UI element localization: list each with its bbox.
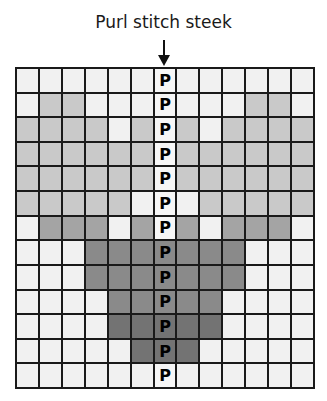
chart-cell	[40, 241, 61, 264]
chart-cell	[292, 143, 313, 166]
chart-cell	[132, 315, 153, 338]
purl-steek-cell: P	[155, 192, 176, 215]
chart-cell	[200, 118, 221, 141]
chart-cell	[177, 315, 198, 338]
chart-cell	[269, 364, 290, 387]
purl-steek-cell: P	[155, 69, 176, 92]
chart-cell	[86, 364, 107, 387]
chart-cell	[246, 94, 267, 117]
chart-cell	[132, 340, 153, 363]
chart-cell	[200, 340, 221, 363]
chart-cell	[63, 217, 84, 240]
chart-cell	[40, 266, 61, 289]
chart-cell	[40, 118, 61, 141]
chart-cell	[132, 217, 153, 240]
chart-cell	[223, 69, 244, 92]
chart-cell	[63, 69, 84, 92]
chart-cell	[200, 69, 221, 92]
chart-cell	[17, 192, 38, 215]
chart-cell	[40, 94, 61, 117]
chart-cell	[292, 340, 313, 363]
chart-cell	[269, 266, 290, 289]
chart-cell	[269, 167, 290, 190]
chart-cell	[269, 94, 290, 117]
chart-cell	[86, 217, 107, 240]
chart-cell	[109, 217, 130, 240]
purl-steek-cell: P	[155, 340, 176, 363]
chart-cell	[292, 241, 313, 264]
chart-cell	[200, 291, 221, 314]
chart-cell	[17, 217, 38, 240]
chart-cell	[17, 94, 38, 117]
chart-cell	[40, 315, 61, 338]
chart-cell	[246, 192, 267, 215]
chart-cell	[177, 69, 198, 92]
chart-cell	[177, 364, 198, 387]
chart-cell	[132, 167, 153, 190]
chart-cell	[63, 291, 84, 314]
chart-cell	[132, 241, 153, 264]
chart-cell	[17, 340, 38, 363]
chart-cell	[86, 340, 107, 363]
chart-cell	[223, 266, 244, 289]
chart-cell	[246, 315, 267, 338]
chart-cell	[40, 291, 61, 314]
chart-cell	[200, 143, 221, 166]
chart-cell	[223, 167, 244, 190]
chart-cell	[246, 143, 267, 166]
chart-cell	[63, 266, 84, 289]
chart-cell	[109, 340, 130, 363]
chart-cell	[17, 241, 38, 264]
chart-cell	[109, 118, 130, 141]
chart-cell	[223, 241, 244, 264]
chart-cell	[17, 315, 38, 338]
chart-cell	[246, 118, 267, 141]
chart-cell	[40, 143, 61, 166]
chart-cell	[40, 217, 61, 240]
chart-cell	[269, 340, 290, 363]
purl-steek-cell: P	[155, 217, 176, 240]
chart-cell	[292, 364, 313, 387]
chart-cell	[63, 241, 84, 264]
chart-cell	[292, 217, 313, 240]
chart-cell	[109, 192, 130, 215]
chart-cell	[292, 192, 313, 215]
chart-cell	[86, 94, 107, 117]
chart-cell	[223, 94, 244, 117]
chart-cell	[63, 364, 84, 387]
chart-cell	[109, 69, 130, 92]
chart-cell	[109, 291, 130, 314]
chart-cell	[246, 69, 267, 92]
chart-cell	[292, 167, 313, 190]
purl-steek-cell: P	[155, 241, 176, 264]
purl-steek-cell: P	[155, 143, 176, 166]
chart-cell	[223, 192, 244, 215]
chart-cell	[109, 241, 130, 264]
chart-cell	[132, 291, 153, 314]
chart-cell	[223, 118, 244, 141]
chart-cell	[177, 217, 198, 240]
chart-cell	[177, 241, 198, 264]
chart-cell	[132, 143, 153, 166]
chart-cell	[223, 291, 244, 314]
purl-steek-cell: P	[155, 94, 176, 117]
chart-cell	[246, 364, 267, 387]
chart-cell	[246, 291, 267, 314]
chart-cell	[40, 364, 61, 387]
chart-cell	[86, 291, 107, 314]
chart-cell	[63, 94, 84, 117]
purl-steek-cell: P	[155, 118, 176, 141]
chart-cell	[109, 143, 130, 166]
chart-cell	[132, 94, 153, 117]
chart-cell	[177, 167, 198, 190]
chart-cell	[17, 167, 38, 190]
chart-cell	[269, 143, 290, 166]
chart-cell	[292, 291, 313, 314]
chart-cell	[223, 315, 244, 338]
chart-cell	[17, 143, 38, 166]
purl-steek-cell: P	[155, 315, 176, 338]
chart-cell	[292, 315, 313, 338]
chart-cell	[269, 217, 290, 240]
chart-cell	[246, 266, 267, 289]
chart-cell	[269, 241, 290, 264]
